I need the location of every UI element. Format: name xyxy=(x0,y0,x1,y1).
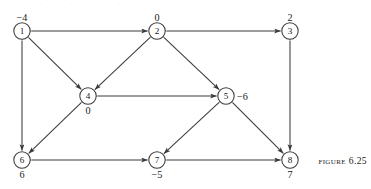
node-id-label-4: 4 xyxy=(86,91,91,101)
node-value-label-5: −6 xyxy=(237,91,248,102)
node-value-label-6: 6 xyxy=(19,169,24,180)
figure-caption-word: Figure xyxy=(318,155,345,166)
node-id-label-5: 5 xyxy=(224,91,229,101)
node-id-label-3: 3 xyxy=(288,26,293,36)
graph-node-3[interactable]: 32 xyxy=(282,12,298,40)
graph-edge xyxy=(95,37,150,89)
node-value-label-3: 2 xyxy=(287,12,292,23)
node-value-label-4: 0 xyxy=(85,105,90,116)
node-value-label-7: −5 xyxy=(152,169,163,180)
graph-node-8[interactable]: 87 xyxy=(282,152,298,180)
graph-edge xyxy=(29,103,82,154)
graph-node-7[interactable]: 7−5 xyxy=(149,152,165,180)
graph-diagram: 1−42032405−6667−587 xyxy=(0,0,371,189)
node-id-label-8: 8 xyxy=(288,155,293,165)
figure-caption: Figure6.25 xyxy=(318,155,367,166)
graph-node-1[interactable]: 1−4 xyxy=(14,12,30,40)
graph-node-4[interactable]: 40 xyxy=(80,88,96,116)
node-id-label-7: 7 xyxy=(155,155,160,165)
node-value-label-2: 0 xyxy=(154,12,159,23)
node-id-label-6: 6 xyxy=(20,155,25,165)
node-id-label-1: 1 xyxy=(20,26,25,36)
graph-edge xyxy=(29,38,82,90)
node-value-label-8: 7 xyxy=(287,169,292,180)
graph-edge xyxy=(164,37,219,89)
figure-container: · · · · · · · · · 1−42032405−6667−587 Fi… xyxy=(0,0,371,189)
node-id-label-2: 2 xyxy=(155,26,160,36)
graph-node-5[interactable]: 5−6 xyxy=(218,88,248,104)
node-value-label-1: −4 xyxy=(17,12,28,23)
graph-edge xyxy=(164,102,219,153)
graph-node-2[interactable]: 20 xyxy=(149,12,165,40)
graph-node-6[interactable]: 66 xyxy=(14,152,30,180)
figure-caption-number: 6.25 xyxy=(349,155,367,166)
edges-layer xyxy=(22,31,290,160)
graph-edge xyxy=(233,103,284,154)
